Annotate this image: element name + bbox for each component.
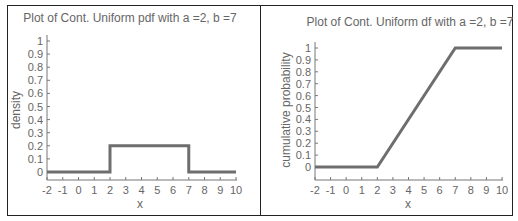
y-axis-label: cumulative probability	[279, 52, 293, 167]
x-tick-label: 10	[496, 184, 508, 196]
y-tick-label: 0	[305, 161, 311, 173]
y-tick-label: 0.7	[296, 78, 311, 90]
x-tick-label: 0	[343, 184, 349, 196]
x-tick-label: 9	[483, 184, 489, 196]
x-tick-label: -1	[326, 184, 336, 196]
x-tick-label: 3	[390, 184, 396, 196]
x-tick-label: 1	[359, 184, 365, 196]
x-axis-label: x	[405, 197, 411, 211]
cdf-plot: Plot of Cont. Uniform df with a =2, b =7…	[0, 0, 518, 221]
y-tick-label: 0.4	[296, 113, 311, 125]
x-tick-label: 6	[437, 184, 443, 196]
x-tick-label: -2	[310, 184, 320, 196]
y-tick-label: 0.9	[296, 54, 311, 66]
data-line	[315, 48, 502, 167]
y-tick-label: 0.8	[296, 66, 311, 78]
y-tick-label: 0.3	[296, 125, 311, 137]
y-tick-label: 0.5	[296, 102, 311, 114]
y-tick-label: 0.2	[296, 137, 311, 149]
y-tick-label: 0.1	[296, 149, 311, 161]
x-tick-label: 8	[468, 184, 474, 196]
x-tick-label: 4	[405, 184, 411, 196]
x-tick-label: 2	[374, 184, 380, 196]
y-tick-label: 1	[305, 42, 311, 54]
x-tick-label: 7	[452, 184, 458, 196]
x-tick-label: 5	[421, 184, 427, 196]
chart-title: Plot of Cont. Uniform df with a =2, b =7	[307, 15, 514, 29]
y-tick-label: 0.6	[296, 90, 311, 102]
